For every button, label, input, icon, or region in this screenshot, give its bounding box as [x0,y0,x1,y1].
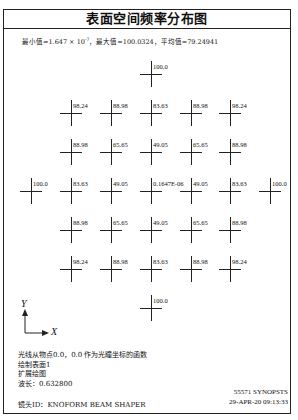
cross-horizontal [140,152,162,153]
note-line: 绘制表面1 [18,361,148,371]
grid-value: 83.63 [232,180,247,187]
cross-horizontal [219,230,241,231]
cross-horizontal [60,230,82,231]
grid-value: 88.98 [232,141,247,148]
cross-horizontal [219,152,241,153]
cross-horizontal [100,113,122,114]
stats-suffix: ，最大值=100.0324，平均值=79.24941 [89,38,218,46]
cross-horizontal [140,308,162,309]
grid-value: 100.0 [153,63,168,70]
grid-value: 98.24 [73,258,88,265]
grid-value: 88.98 [73,219,88,226]
cross-horizontal [140,269,162,270]
grid-value: 65.65 [113,219,128,226]
grid-value: 49.05 [153,219,168,226]
grid-value: 0.1647E-06 [153,180,184,187]
stamp-date: 29-APR-20 09:13:33 [229,398,288,408]
cross-horizontal [180,152,202,153]
cross-horizontal [140,191,162,192]
cross-horizontal [180,191,202,192]
grid-value: 88.98 [113,102,128,109]
grid-value: 88.98 [73,141,88,148]
grid-value: 100.0 [272,180,287,187]
grid-value: 65.65 [193,141,208,148]
grid-value: 65.65 [113,141,128,148]
grid-value: 88.98 [113,258,128,265]
cross-horizontal [219,113,241,114]
grid-value: 49.05 [193,180,208,187]
grid-value: 98.24 [73,102,88,109]
cross-horizontal [60,152,82,153]
x-axis-label: X [51,326,57,337]
cross-horizontal [140,74,162,75]
grid-value: 49.05 [113,180,128,187]
plot-title: 表面空间频率分布图 [3,9,291,29]
grid-value: 65.65 [193,219,208,226]
cross-horizontal [259,191,281,192]
grid-value: 83.63 [73,180,88,187]
cross-horizontal [100,230,122,231]
note-line: 扩展绘图 [18,370,148,380]
grid-value: 83.63 [153,102,168,109]
cross-horizontal [180,113,202,114]
stats-prefix: 最小值=1.647 × 10 [22,38,85,46]
lens-id: 镜头ID：KNOFORM BEAM SHAPER [18,399,145,409]
axis-indicator: Y X [18,298,68,340]
grid-value: 100.0 [153,297,168,304]
program-stamp: 55571 SYNOPSTS 29-APR-20 09:13:33 [229,388,288,407]
note-line: 光线从物点0.0，0.0 作为光瞳坐标的函数 [18,351,148,361]
cross-horizontal [60,191,82,192]
cross-horizontal [100,152,122,153]
cross-horizontal [60,113,82,114]
stats-line: 最小值=1.647 × 10-7，最大值=100.0324，平均值=79.249… [22,36,218,46]
cross-horizontal [140,230,162,231]
grid-value: 100.0 [33,180,48,187]
grid-value: 88.98 [193,258,208,265]
cross-horizontal [219,191,241,192]
grid-value: 88.98 [193,102,208,109]
cross-horizontal [20,191,42,192]
cross-horizontal [60,269,82,270]
cross-horizontal [180,269,202,270]
plot-notes: 光线从物点0.0，0.0 作为光瞳坐标的函数 绘制表面1 扩展绘图 波长：0.6… [18,351,148,389]
cross-horizontal [140,113,162,114]
cross-horizontal [100,191,122,192]
grid-value: 83.63 [153,258,168,265]
cross-horizontal [180,230,202,231]
cross-horizontal [219,269,241,270]
cross-horizontal [100,269,122,270]
grid-value: 98.24 [232,102,247,109]
axis-arrows-icon [18,298,68,340]
note-line: 波长：0.632800 [18,380,148,390]
grid-value: 88.98 [232,219,247,226]
grid-value: 98.24 [232,258,247,265]
grid-value: 49.05 [153,141,168,148]
stamp-id: 55571 SYNOPSTS [229,388,288,398]
